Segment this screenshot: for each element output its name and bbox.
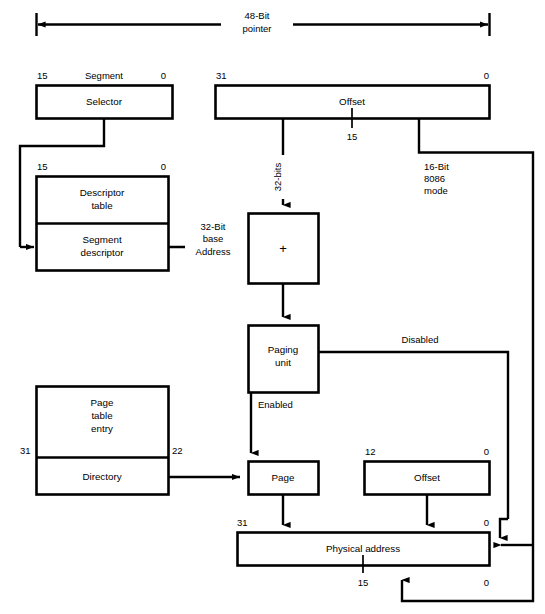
physical-address-lsb-bottom-label: 0 (484, 577, 489, 588)
segment-lsb-label: 0 (161, 70, 166, 81)
page-box-label: Page (272, 472, 295, 483)
diagram-canvas: 48-Bit pointer 15 Segment 0 Selector 31 … (0, 0, 545, 614)
physical-address-lsb-top-label: 0 (484, 517, 489, 528)
base-address-label-line2: base (203, 233, 224, 244)
selector-label: Selector (86, 96, 123, 107)
adder-group: + (249, 214, 319, 284)
top-span-arrow: 48-Bit pointer (37, 10, 490, 37)
descriptor-to-adder-wire: 32-Bit base Address (169, 218, 242, 258)
offset-top-label: Offset (339, 96, 365, 107)
descriptor-lsb-label: 0 (161, 161, 166, 172)
segment-header-label: Segment (85, 70, 123, 81)
offset-to-adder-wire: 32-bits (272, 119, 290, 206)
base-address-label-line1: 32-Bit (201, 221, 226, 232)
base-address-label-line3: Address (196, 246, 231, 257)
offset-bottom-group: 12 0 Offset (365, 446, 490, 495)
page-table-entry-label-line3: entry (91, 423, 113, 434)
segment-selector-group: 15 Segment 0 Selector (37, 70, 173, 119)
physical-address-label: Physical address (326, 543, 400, 554)
mode16-label-line2: 8086 (424, 173, 445, 184)
offset-bottom-msb-label: 12 (365, 446, 376, 457)
page-table-entry-lsb-label: 22 (172, 445, 183, 456)
page-table-entry-label-line2: table (91, 410, 113, 421)
paging-enabled-label: Enabled (258, 399, 293, 410)
address-translation-diagram: 48-Bit pointer 15 Segment 0 Selector 31 … (0, 0, 545, 614)
physical-address-mid-tick-label: 15 (358, 577, 369, 588)
bits32-label: 32-bits (272, 162, 283, 191)
directory-label: Directory (82, 471, 121, 482)
offset-top-mid-tick-label: 15 (347, 131, 358, 142)
descriptor-table-label-line2: table (91, 200, 113, 211)
adder-plus-symbol: + (279, 241, 287, 256)
descriptor-table-label-line1: Descriptor (80, 187, 125, 198)
span-label-line2: pointer (242, 23, 271, 34)
offset-top-lsb-label: 0 (484, 70, 489, 81)
descriptor-msb-label: 15 (37, 161, 48, 172)
mode16-label-line1: 16-Bit (424, 161, 449, 172)
offset-bottom-label: Offset (414, 472, 440, 483)
paging-disabled-label: Disabled (402, 334, 439, 345)
paging-disabled-wire: Disabled (319, 334, 509, 538)
segment-descriptor-label-line1: Segment (82, 234, 121, 245)
page-table-entry-group: Page table entry Directory 31 22 (20, 387, 183, 495)
paging-enabled-wire: Enabled (251, 393, 293, 454)
offset-top-msb-label: 31 (216, 70, 227, 81)
offset-bottom-lsb-label: 0 (484, 446, 489, 457)
offset-top-group: 31 0 Offset 15 (216, 70, 490, 142)
segment-descriptor-label-line2: descriptor (80, 247, 124, 258)
paging-unit-label-line2: unit (275, 357, 291, 368)
paging-unit-label-line1: Paging (268, 344, 299, 355)
paging-unit-group: Paging unit (249, 326, 319, 393)
segment-msb-label: 15 (37, 70, 48, 81)
page-table-entry-msb-label: 31 (20, 445, 31, 456)
mode16-label-line3: mode (424, 185, 448, 196)
page-table-entry-label-line1: Page (91, 397, 114, 408)
descriptor-table-group: 15 0 Descriptor table Segment descriptor (37, 161, 169, 271)
physical-address-msb-label: 31 (237, 517, 248, 528)
span-label-line1: 48-Bit (245, 10, 270, 21)
page-box-group: Page (249, 462, 319, 495)
physical-address-group: 31 0 Physical address 15 0 (237, 517, 490, 588)
